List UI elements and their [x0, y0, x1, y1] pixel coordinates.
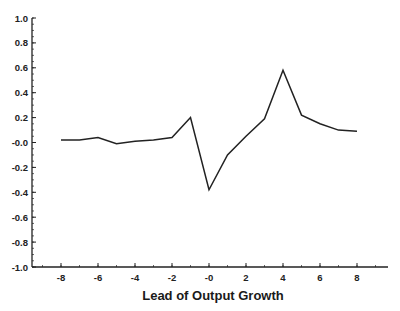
y-tick-label: -1.0 [12, 262, 28, 273]
x-tick-label: -4 [131, 272, 140, 283]
x-tick-label: -8 [57, 272, 65, 283]
x-tick-label: -0 [205, 272, 213, 283]
y-tick-label: -0.8 [12, 237, 28, 248]
x-tick-label: 8 [354, 272, 359, 283]
y-tick-label: 0.8 [15, 37, 28, 48]
series-line [61, 70, 357, 190]
y-tick-label: 0.2 [15, 112, 28, 123]
data-series [61, 70, 357, 190]
x-tick-label: 6 [317, 272, 322, 283]
y-tick-label: -0.4 [12, 187, 29, 198]
y-tick-label: -0.2 [12, 162, 28, 173]
y-tick-label: 0.6 [15, 62, 28, 73]
y-tick-label: 1.0 [15, 13, 28, 24]
x-tick-label: 2 [243, 272, 248, 283]
x-axis-label: Lead of Output Growth [142, 288, 284, 303]
x-tick-label: -6 [94, 272, 102, 283]
x-tick-label: -2 [168, 272, 176, 283]
y-tick-label: -0.0 [12, 137, 28, 148]
x-axis: -8-6-4-2-02468 [32, 263, 388, 283]
x-tick-label: 4 [280, 272, 286, 283]
y-axis: 1.00.80.60.40.2-0.0-0.2-0.4-0.6-0.8-1.0 [12, 13, 36, 273]
line-chart: 1.00.80.60.40.2-0.0-0.2-0.4-0.6-0.8-1.0 … [0, 0, 400, 311]
y-tick-label: -0.6 [12, 212, 28, 223]
y-tick-label: 0.4 [15, 87, 29, 98]
